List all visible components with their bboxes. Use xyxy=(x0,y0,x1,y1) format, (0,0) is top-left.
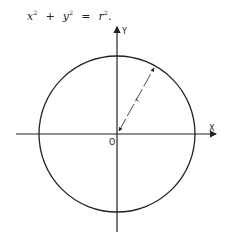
circle-diagram: Y X O r xyxy=(0,0,225,243)
origin-label: O xyxy=(109,138,115,147)
x-axis-label: X xyxy=(209,124,215,133)
y-axis-label: Y xyxy=(121,27,127,36)
